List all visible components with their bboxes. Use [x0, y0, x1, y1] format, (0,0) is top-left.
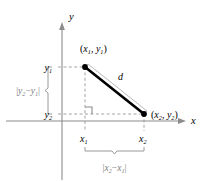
figure-canvas: y x (x1, y1) (x2, y2) d y1 y2 x1 [0, 0, 204, 181]
horizontal-bracket-shape [85, 147, 144, 154]
y-axis-arrowhead [59, 22, 65, 30]
y-axis-label: y [68, 11, 74, 22]
horizontal-bracket-label: |x2−x1| [103, 163, 127, 174]
point-2-dot [141, 111, 147, 117]
right-angle-marker-icon [85, 107, 92, 114]
distance-label-text: d [118, 71, 124, 82]
vbracket-bar-close: | [38, 86, 40, 96]
hbracket-bar-close: | [124, 163, 126, 173]
point-2-close-paren: ) [174, 109, 177, 121]
x-axis-label-text: x [190, 115, 196, 126]
point-1-close-paren: ) [103, 43, 106, 55]
distance-label: d [118, 71, 124, 82]
distance-segment [85, 67, 144, 114]
x-axis-arrowhead [178, 118, 186, 124]
y-axis-label-text: y [68, 11, 74, 22]
point-1-label: (x1, y1) [80, 43, 107, 55]
tick-label-y1-sub: 1 [49, 67, 52, 74]
tick-label-x2-sub: 2 [143, 138, 146, 145]
point-2-label: (x2, y2) [151, 109, 178, 121]
vertical-bracket-label: |y2−y1| [16, 86, 40, 97]
x-axis-label: x [190, 115, 196, 126]
distance-formula-figure: y x (x1, y1) (x2, y2) d y1 y2 x1 [0, 0, 204, 181]
tick-label-y2-sub: 2 [49, 114, 52, 121]
tick-label-y2: y2 [43, 109, 52, 121]
tick-label-x2: x2 [138, 133, 147, 145]
point-1-dot [82, 64, 88, 70]
tick-label-y1: y1 [43, 62, 52, 74]
tick-label-x1: x1 [79, 133, 88, 145]
tick-label-x1-sub: 1 [84, 138, 87, 145]
